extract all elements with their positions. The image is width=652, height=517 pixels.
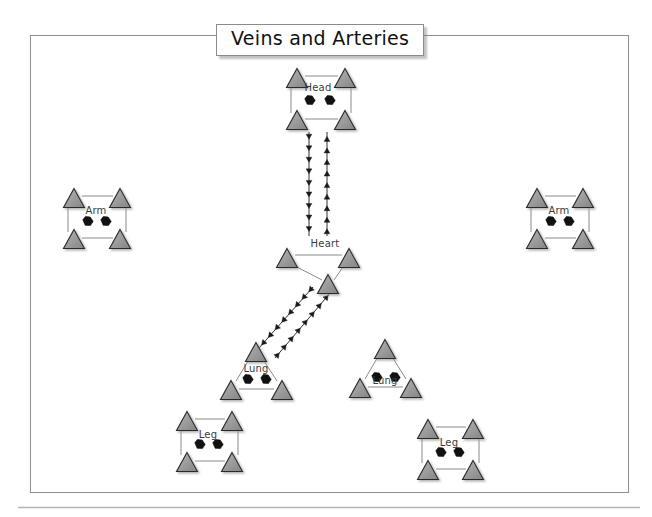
flow-heart-to-head (324, 132, 330, 236)
flow-arrowhead-head-to-heart-7 (306, 215, 312, 220)
triangle-head-1 (335, 69, 356, 88)
flow-lung-to-heart (274, 292, 331, 359)
node-label-lung-left: Lung (243, 363, 268, 374)
flow-arrowhead-heart-to-head-3 (324, 194, 330, 199)
triangle-lung-right-0 (375, 340, 396, 359)
flow-arrowhead-heart-to-head-1 (324, 217, 330, 222)
blood-cell-lung-left-1 (261, 374, 271, 383)
triangle-lung-right-1 (350, 379, 371, 398)
node-label-leg-right: Leg (440, 437, 459, 448)
triangle-leg-right-3 (463, 461, 484, 480)
triangle-leg-left-3 (222, 453, 243, 472)
page-title: Veins and Arteries (216, 24, 424, 56)
triangle-arm-right-3 (573, 230, 594, 249)
flow-arrowhead-heart-to-head-4 (324, 183, 330, 188)
flow-arrowhead-head-to-heart-0 (306, 134, 312, 139)
flow-head-to-heart (306, 132, 312, 236)
flow-arrowhead-head-to-heart-8 (306, 227, 312, 232)
triangle-arm-right-2 (527, 230, 548, 249)
flow-arrowhead-head-to-heart-6 (306, 203, 312, 208)
flow-arrowhead-heart-to-head-8 (324, 136, 330, 141)
blood-cell-head-1 (325, 95, 335, 104)
blood-cell-leg-left-0 (195, 439, 205, 448)
blood-cell-leg-right-0 (436, 447, 446, 456)
triangle-lung-left-1 (221, 381, 242, 400)
blood-cell-arm-right-1 (564, 216, 574, 225)
triangle-heart-0 (277, 249, 298, 268)
node-label-head: Head (305, 82, 332, 93)
blood-cell-arm-right-0 (546, 216, 556, 225)
flow-arrowhead-heart-to-lung-0 (309, 286, 314, 292)
diagram-svg (0, 0, 652, 517)
triangle-head-3 (335, 111, 356, 130)
triangle-leg-left-2 (177, 453, 198, 472)
triangle-leg-right-1 (463, 420, 484, 439)
node-triangles (64, 69, 594, 480)
flow-arrowhead-heart-to-head-7 (324, 148, 330, 153)
triangle-heart-1 (339, 249, 360, 268)
blood-cell-arm-left-1 (101, 216, 111, 225)
triangle-lung-left-2 (272, 381, 293, 400)
triangle-lung-left-0 (246, 343, 267, 362)
node-label-heart: Heart (311, 238, 340, 249)
triangle-leg-right-0 (418, 420, 439, 439)
diagram-canvas: Veins and Arteries HeadArmArmHeartLungLu… (0, 0, 652, 517)
flow-heart-to-lung (259, 286, 314, 348)
blood-cell-arm-left-0 (83, 216, 93, 225)
flow-arrowhead-heart-to-head-2 (324, 206, 330, 211)
flow-arrowhead-head-to-heart-1 (306, 146, 312, 151)
triangle-arm-left-2 (64, 230, 85, 249)
triangle-arm-right-1 (573, 189, 594, 208)
blood-cell-leg-left-1 (213, 439, 223, 448)
triangle-leg-right-2 (418, 461, 439, 480)
triangle-arm-right-0 (527, 189, 548, 208)
triangle-arm-left-3 (110, 230, 131, 249)
node-label-lung-right: Lung (372, 375, 397, 386)
flow-arrowhead-heart-to-head-6 (324, 160, 330, 165)
diagram-frame (18, 36, 640, 508)
triangle-arm-left-1 (110, 189, 131, 208)
blood-cell-leg-right-1 (454, 447, 464, 456)
flow-arrowhead-head-to-heart-3 (306, 169, 312, 174)
triangle-leg-left-1 (222, 412, 243, 431)
node-connectors (68, 76, 589, 469)
blood-cell-head-0 (305, 95, 315, 104)
flow-arrowhead-heart-to-head-0 (324, 229, 330, 234)
flow-arrowhead-head-to-heart-5 (306, 192, 312, 197)
blood-cell-lung-left-0 (243, 374, 253, 383)
triangle-head-2 (287, 111, 308, 130)
flow-arrowhead-head-to-heart-4 (306, 180, 312, 185)
node-label-arm-left: Arm (85, 205, 106, 216)
flow-arrowhead-heart-to-head-5 (324, 171, 330, 176)
node-label-arm-right: Arm (548, 205, 569, 216)
triangle-arm-left-0 (64, 189, 85, 208)
node-label-leg-left: Leg (199, 429, 218, 440)
flow-arrowhead-head-to-heart-2 (306, 157, 312, 162)
triangle-leg-left-0 (177, 412, 198, 431)
triangle-lung-right-2 (401, 379, 422, 398)
